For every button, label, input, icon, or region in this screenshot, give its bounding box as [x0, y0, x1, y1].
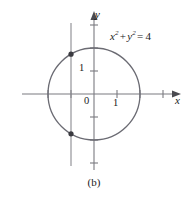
- coordinate-plane-graphic: [0, 0, 188, 199]
- y-axis-tick-label-one: 1: [79, 62, 84, 73]
- x-axis-label: x: [175, 94, 180, 106]
- equation-label: x2+y2=4: [110, 30, 152, 42]
- intersection-point-lower: [68, 131, 73, 136]
- y-axis-label: y: [95, 8, 100, 20]
- intersection-point-upper: [68, 52, 73, 57]
- panel-caption: (b): [0, 176, 188, 188]
- equation-right-hand-side: 4: [144, 30, 152, 42]
- figure-panel-b: x2+y2=4 x y 0 1 1 (b): [0, 0, 188, 199]
- equation-operator-plus: +: [119, 30, 127, 42]
- x-axis-tick-label-one: 1: [113, 97, 118, 108]
- origin-tick-label: 0: [84, 95, 89, 106]
